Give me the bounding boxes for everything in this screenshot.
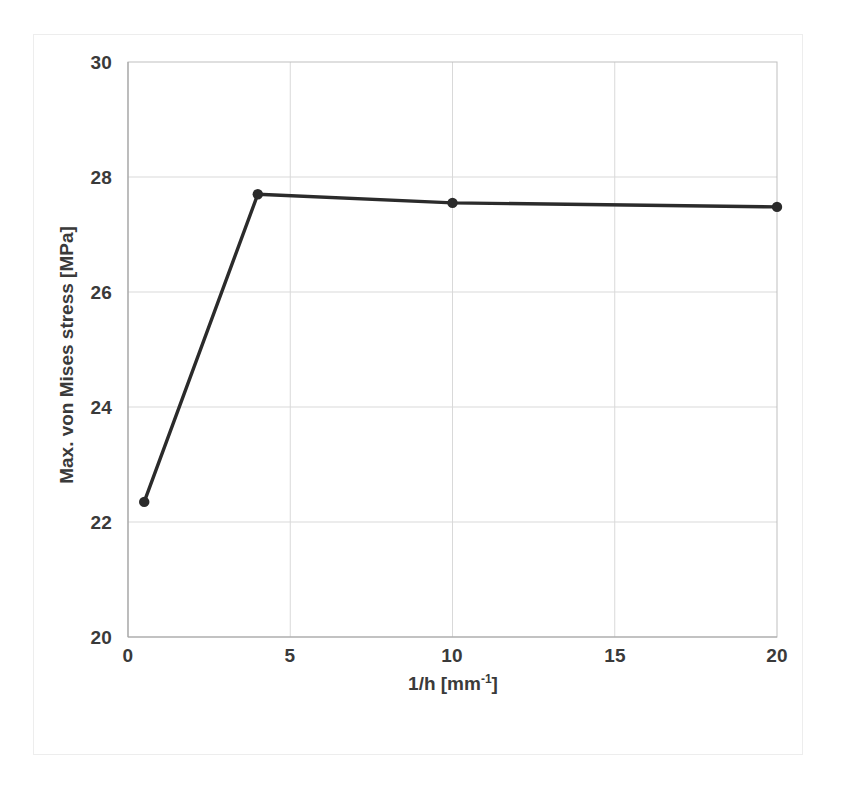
y-tick-label-26: 26 bbox=[72, 282, 112, 304]
x-tick-label-0: 0 bbox=[98, 645, 158, 667]
y-tick-label-22: 22 bbox=[72, 512, 112, 534]
x-axis-title: 1/h [mm-1] bbox=[253, 673, 653, 695]
data-series bbox=[139, 189, 782, 507]
x-axis-title-main: 1/h [mm bbox=[408, 673, 481, 694]
series-line bbox=[144, 194, 777, 502]
y-tick-label-28: 28 bbox=[72, 167, 112, 189]
x-tick-label-20: 20 bbox=[747, 645, 807, 667]
grid-lines bbox=[128, 62, 777, 637]
data-point-marker bbox=[772, 202, 782, 212]
y-tick-label-24: 24 bbox=[72, 397, 112, 419]
data-point-marker bbox=[447, 198, 457, 208]
x-tick-label-5: 5 bbox=[260, 645, 320, 667]
data-point-marker bbox=[139, 497, 149, 507]
x-axis-title-tail: ] bbox=[492, 673, 498, 694]
x-tick-label-15: 15 bbox=[585, 645, 645, 667]
y-tick-label-30: 30 bbox=[72, 52, 112, 74]
y-axis-title: Max. von Mises stress [MPa] bbox=[56, 205, 78, 505]
chart-figure: 30 28 26 24 22 20 0 5 10 15 20 Max. von … bbox=[0, 0, 849, 796]
x-tick-label-10: 10 bbox=[422, 645, 482, 667]
x-axis-title-exponent: -1 bbox=[481, 672, 492, 686]
data-point-marker bbox=[253, 189, 263, 199]
